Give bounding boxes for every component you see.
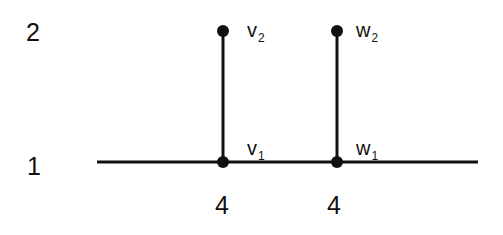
node-label-v1: v1 — [247, 138, 265, 162]
node-w1 — [331, 156, 343, 168]
level-label-1: 1 — [27, 154, 41, 179]
node-label-w1-sub: 1 — [371, 149, 378, 163]
node-label-w2-name: w — [356, 19, 370, 41]
bottom-label-w: 4 — [327, 193, 341, 218]
bottom-label-v: 4 — [215, 193, 229, 218]
node-v1 — [217, 156, 229, 168]
node-label-w1-name: w — [356, 137, 370, 159]
node-label-v2-sub: 2 — [258, 31, 265, 45]
node-label-v2-name: v — [247, 19, 257, 41]
node-label-v2: v2 — [247, 20, 265, 44]
level-label-2: 2 — [26, 20, 40, 45]
node-label-w2-sub: 2 — [371, 31, 378, 45]
node-v2 — [217, 25, 229, 37]
node-label-v1-name: v — [247, 137, 257, 159]
node-label-w1: w1 — [356, 138, 378, 162]
node-label-w2: w2 — [356, 20, 378, 44]
node-label-v1-sub: 1 — [258, 149, 265, 163]
node-w2 — [331, 25, 343, 37]
